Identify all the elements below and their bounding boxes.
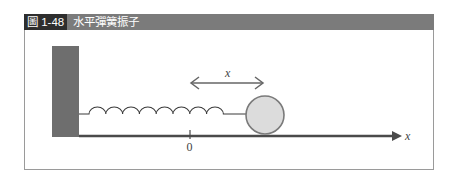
spring bbox=[79, 107, 246, 114]
ball-mass bbox=[246, 96, 284, 134]
spring-oscillator-diagram: x 0 x bbox=[0, 0, 468, 178]
x-axis-label: x bbox=[404, 129, 411, 143]
displacement-label: x bbox=[224, 66, 231, 80]
wall bbox=[52, 46, 79, 137]
x-axis-arrowhead-icon bbox=[392, 131, 402, 141]
origin-label: 0 bbox=[187, 140, 193, 154]
